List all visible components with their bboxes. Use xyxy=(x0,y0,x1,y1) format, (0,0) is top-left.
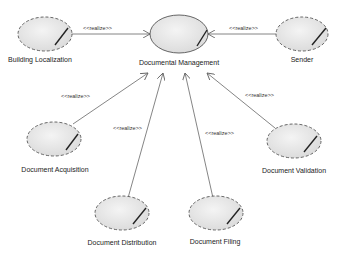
use-case-label: Document Validation xyxy=(262,167,326,174)
use-case-documental-management[interactable]: Documental Management xyxy=(139,15,219,67)
use-case-label: Document Filing xyxy=(190,238,241,246)
relation-document-validation[interactable] xyxy=(207,73,275,128)
use-case-diagram: <<realize>> <<realize>> <<realize>> <<re… xyxy=(0,0,343,260)
relation-label: <<realize>> xyxy=(229,25,258,31)
use-case-label: Documental Management xyxy=(139,59,219,67)
relation-label: <<realize>> xyxy=(205,130,234,136)
use-case-document-acquisition[interactable]: Document Acquisition xyxy=(21,122,88,174)
use-case-document-validation[interactable]: Document Validation xyxy=(262,124,326,174)
use-case-document-distribution[interactable]: Document Distribution xyxy=(88,196,157,246)
use-case-label: Building Localization xyxy=(8,56,72,64)
relation-document-distribution[interactable] xyxy=(128,73,163,198)
use-case-building-localization[interactable]: Building Localization xyxy=(8,17,72,64)
relation-label: <<realize>> xyxy=(245,92,274,98)
use-case-label: Document Acquisition xyxy=(21,166,88,174)
relation-label: <<realize>> xyxy=(61,93,90,99)
use-case-label: Sender xyxy=(291,56,314,63)
relation-label: <<realize>> xyxy=(83,25,112,31)
relation-label: <<realize>> xyxy=(113,125,142,131)
use-case-document-filing[interactable]: Document Filing xyxy=(189,196,243,246)
use-case-sender[interactable]: Sender xyxy=(276,17,328,63)
use-case-label: Document Distribution xyxy=(88,239,157,246)
